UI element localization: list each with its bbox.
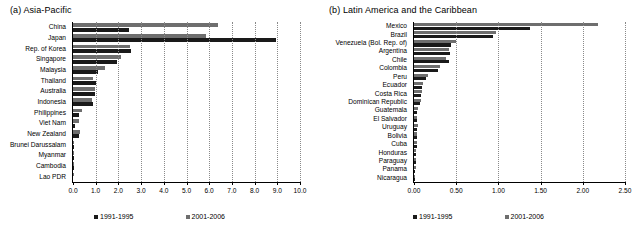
category-label: Cambodia <box>36 163 66 170</box>
bar-1991-1995 <box>73 102 93 106</box>
gridline <box>141 22 142 182</box>
bar-row <box>414 47 625 55</box>
bar-1991-1995 <box>414 43 451 46</box>
bar-1991-1995 <box>73 81 96 85</box>
category-label: Japan <box>48 35 66 42</box>
bar-1991-1995 <box>73 38 276 42</box>
bar-2001-2006 <box>73 98 92 102</box>
plot-area-b: 0.000.501.001.502.002.50 <box>413 22 625 183</box>
bar-2001-2006 <box>414 107 418 110</box>
x-axis-tick <box>118 182 119 185</box>
gridline <box>118 22 119 182</box>
x-axis-tick-label: 10.0 <box>294 187 307 194</box>
x-axis-tick <box>498 182 499 185</box>
gridline <box>209 22 210 182</box>
x-axis-tick <box>164 182 165 185</box>
category-label: Peru <box>393 73 407 80</box>
x-axis-tick-label: 8.0 <box>250 187 259 194</box>
gridline <box>96 22 97 182</box>
bar-row <box>414 174 625 182</box>
bar-row <box>414 106 625 114</box>
bar-row <box>414 131 625 139</box>
bar-2001-2006 <box>414 99 421 102</box>
category-label: New Zealand <box>27 131 66 138</box>
x-axis-tick-label: 1.0 <box>91 187 100 194</box>
category-label: Uruguay <box>382 124 407 131</box>
bar-1991-1995 <box>414 178 415 181</box>
bar-2001-2006 <box>414 31 496 34</box>
legend-item: 1991-1995 <box>94 213 133 220</box>
bar-2001-2006 <box>73 87 95 91</box>
x-axis-tick <box>255 182 256 185</box>
bar-row <box>414 30 625 38</box>
category-label: Nicaragua <box>377 174 407 181</box>
category-labels-b: MexicoBrazilVenezuela (Bol. Rep. of)Arge… <box>319 22 410 183</box>
category-label: Panama <box>382 166 407 173</box>
bar-1991-1995 <box>73 70 98 74</box>
category-label: Thailand <box>41 77 66 84</box>
bar-1991-1995 <box>73 92 95 96</box>
bar-1991-1995 <box>73 124 75 128</box>
bar-1991-1995 <box>414 27 530 30</box>
bar-2001-2006 <box>414 23 598 26</box>
legend-b: 1991-19952001-2006 <box>319 213 638 220</box>
legend-swatch-icon <box>186 215 190 219</box>
panel-asia-pacific: (a) Asia-Pacific ChinaJapanRep. of Korea… <box>0 0 319 226</box>
panel-latin-america-caribbean: (b) Latin America and the Caribbean Mexi… <box>319 0 638 226</box>
bar-2001-2006 <box>73 130 80 134</box>
category-label: Paraguay <box>379 158 407 165</box>
category-label: Guatemala <box>375 107 407 114</box>
category-label: El Salvador <box>373 116 407 123</box>
bar-2001-2006 <box>73 66 105 70</box>
legend-item: 2001-2006 <box>505 213 544 220</box>
bar-row <box>414 148 625 156</box>
bar-2001-2006 <box>73 45 130 49</box>
legend-swatch-icon <box>413 215 417 219</box>
bar-2001-2006 <box>414 124 418 127</box>
bar-row <box>414 73 625 81</box>
x-axis-tick <box>583 182 584 185</box>
bar-1991-1995 <box>414 94 421 97</box>
bar-2001-2006 <box>414 90 422 93</box>
gridline <box>232 22 233 182</box>
gridline <box>583 22 584 182</box>
x-axis-tick <box>456 182 457 185</box>
bar-row <box>414 22 625 30</box>
x-axis-tick <box>625 182 626 185</box>
x-axis-tick <box>209 182 210 185</box>
plot-area-a: 0.01.02.03.04.05.06.07.08.09.010.0 <box>72 22 300 183</box>
bar-1991-1995 <box>73 49 131 53</box>
legend-label: 2001-2006 <box>511 213 544 220</box>
bar-1991-1995 <box>414 35 493 38</box>
category-label: Viet Nam <box>39 120 66 127</box>
x-axis-tick-label: 2.00 <box>576 187 589 194</box>
x-axis-tick <box>232 182 233 185</box>
bar-2001-2006 <box>414 65 440 68</box>
gridline <box>164 22 165 182</box>
bar-1991-1995 <box>414 136 417 139</box>
category-label: Honduras <box>378 149 407 156</box>
category-label: Mexico <box>386 23 407 30</box>
bar-row <box>414 115 625 123</box>
bar-row <box>414 98 625 106</box>
legend-swatch-icon <box>505 215 509 219</box>
category-label: Chile <box>392 57 407 64</box>
bar-2001-2006 <box>414 74 428 77</box>
bar-2001-2006 <box>73 109 82 113</box>
x-axis-tick-label: 3.0 <box>137 187 146 194</box>
category-label: China <box>49 24 66 31</box>
category-labels-a: ChinaJapanRep. of KoreaSingaporeMalaysia… <box>0 22 69 183</box>
legend-label: 2001-2006 <box>192 213 225 220</box>
category-label: Cuba <box>391 141 407 148</box>
gridline <box>498 22 499 182</box>
bar-2001-2006 <box>414 158 416 161</box>
bar-1991-1995 <box>73 113 79 117</box>
legend-label: 1991-1995 <box>100 213 133 220</box>
bar-2001-2006 <box>414 141 417 144</box>
legend-item: 2001-2006 <box>186 213 225 220</box>
bar-2001-2006 <box>73 119 79 123</box>
x-axis-tick <box>300 182 301 185</box>
x-axis-tick-label: 9.0 <box>273 187 282 194</box>
category-label: Brazil <box>391 31 408 38</box>
category-label: Singapore <box>36 56 66 63</box>
